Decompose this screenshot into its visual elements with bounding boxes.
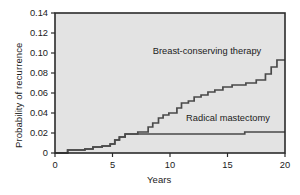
x-tick-label: 15 bbox=[222, 160, 232, 170]
y-tick-label: 0.06 bbox=[30, 88, 48, 98]
series-annotation-label: Radical mastectomy bbox=[186, 113, 270, 123]
y-tick-label: 0.04 bbox=[30, 108, 48, 118]
x-axis-title: Years bbox=[147, 174, 171, 185]
x-axis-ticks: 05101520 bbox=[52, 153, 290, 170]
y-tick-label: 0.02 bbox=[30, 128, 48, 138]
y-tick-label: 0.14 bbox=[30, 8, 48, 18]
x-tick-label: 0 bbox=[52, 160, 57, 170]
y-tick-label: 0.12 bbox=[30, 28, 48, 38]
recurrence-plot: 00.020.040.060.080.100.120.14 05101520 B… bbox=[0, 0, 300, 195]
y-axis-title: Probability of recurrence bbox=[13, 43, 24, 148]
y-tick-label: 0 bbox=[43, 148, 48, 158]
y-tick-label: 0.10 bbox=[30, 48, 48, 58]
chart-figure: 00.020.040.060.080.100.120.14 05101520 B… bbox=[0, 0, 300, 195]
y-tick-label: 0.08 bbox=[30, 68, 48, 78]
x-tick-label: 5 bbox=[110, 160, 115, 170]
x-tick-label: 20 bbox=[280, 160, 290, 170]
y-axis-ticks: 00.020.040.060.080.100.120.14 bbox=[30, 8, 55, 158]
x-tick-label: 10 bbox=[165, 160, 175, 170]
series-annotation-label: Breast-conserving therapy bbox=[153, 46, 262, 56]
